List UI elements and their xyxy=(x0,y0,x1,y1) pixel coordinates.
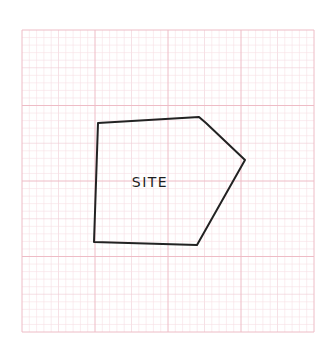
site-label: SITE xyxy=(128,174,172,190)
graph-paper-sheet: SITE xyxy=(0,0,336,359)
